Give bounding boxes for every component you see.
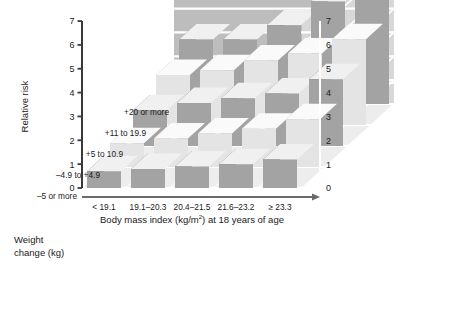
y-tick-label-5: 5 <box>69 64 74 74</box>
right-tick-label-6: 6 <box>326 40 331 50</box>
y-tick-label-6: 6 <box>69 40 74 50</box>
y-tick-mark-0 <box>78 187 83 189</box>
y-tick-mark-5 <box>78 68 83 70</box>
bar-4-1-front <box>131 169 165 188</box>
y-tick-label-4: 4 <box>69 88 74 98</box>
z-axis-title-line2: change (kg) <box>14 247 64 258</box>
y-axis-title: Relative risk <box>19 80 30 132</box>
y-tick-label-3: 3 <box>69 112 74 122</box>
x-tick-label-4: ≥ 23.3 <box>268 202 291 212</box>
y-tick-mark-6 <box>78 44 83 46</box>
z-tick-label-1: +11 to 19.9 <box>105 128 147 138</box>
x-axis-title: Body mass index (kg/m2) at 18 years of a… <box>100 214 284 225</box>
y-tick-label-1: 1 <box>69 160 74 170</box>
relative-risk-3d-bar-chart: 76543210Relative risk76543210< 19.119.1–… <box>0 0 458 310</box>
z-tick-label-0: +20 or more <box>124 107 169 117</box>
right-axis-line <box>319 21 321 188</box>
x-tick-label-2: 20.4–21.5 <box>174 202 211 212</box>
right-tick-label-1: 1 <box>326 160 331 170</box>
y-tick-label-2: 2 <box>69 136 74 146</box>
z-tick-label-4: –5 or more <box>37 191 78 201</box>
right-tick-label-5: 5 <box>326 64 331 74</box>
x-tick-label-0: < 19.1 <box>92 202 116 212</box>
z-axis-title-line1: Weight <box>14 234 44 245</box>
bar-4-2-front <box>175 167 209 188</box>
y-tick-mark-3 <box>78 116 83 118</box>
y-tick-mark-1 <box>78 163 83 165</box>
chart-canvas: 76543210Relative risk76543210< 19.119.1–… <box>0 0 458 310</box>
y-tick-mark-4 <box>78 92 83 94</box>
y-tick-mark-2 <box>78 139 83 141</box>
y-tick-label-7: 7 <box>69 16 74 26</box>
y-tick-mark-7 <box>78 20 83 22</box>
x-axis-line <box>82 196 312 198</box>
y-axis-line <box>81 21 83 188</box>
z-tick-label-3: –4.9 to +4.9 <box>56 170 100 180</box>
bar-4-4-front <box>263 159 297 188</box>
right-tick-label-2: 2 <box>326 136 331 146</box>
x-tick-label-1: 19.1–20.3 <box>130 202 167 212</box>
right-tick-label-7: 7 <box>326 16 331 26</box>
right-tick-label-3: 3 <box>326 112 331 122</box>
z-tick-label-2: +5 to 10.9 <box>86 149 124 159</box>
bar-4-3-front <box>219 164 253 188</box>
x-axis-arrow <box>312 194 320 201</box>
right-tick-label-4: 4 <box>326 88 331 98</box>
right-tick-label-0: 0 <box>326 183 331 193</box>
x-tick-label-3: 21.6–23.2 <box>218 202 255 212</box>
